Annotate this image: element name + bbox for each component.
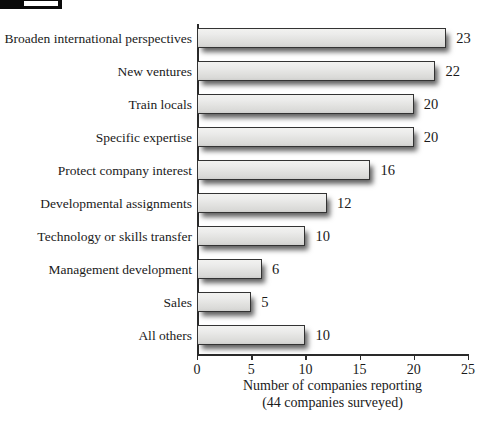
x-tick-label-20: 20	[407, 362, 421, 378]
bar-row: 10	[197, 222, 468, 254]
x-axis-sublabel: (44 companies surveyed)	[197, 395, 468, 412]
bar	[197, 226, 305, 246]
bar-row: 12	[197, 189, 468, 221]
category-label: Sales	[164, 294, 193, 311]
plot-area: 0510152025 232220201612106510	[197, 24, 468, 354]
bar	[197, 325, 305, 345]
bar-value-label: 16	[380, 161, 395, 179]
bar	[197, 193, 327, 213]
bar	[197, 292, 251, 312]
bar	[197, 61, 435, 81]
bar-row: 22	[197, 57, 468, 89]
x-tick-0	[197, 354, 198, 360]
x-axis-caption: Number of companies reporting (44 compan…	[197, 378, 468, 411]
bar	[197, 127, 414, 147]
category-label: Train locals	[128, 96, 192, 113]
bar-value-label: 20	[424, 128, 439, 146]
category-label: Developmental assignments	[40, 195, 192, 212]
x-tick-15	[360, 354, 361, 360]
bar-row: 6	[197, 255, 468, 287]
bar	[197, 259, 262, 279]
bar-value-label: 6	[272, 260, 279, 278]
x-tick-label-0: 0	[194, 362, 201, 378]
x-tick-label-10: 10	[298, 362, 312, 378]
bar-row: 20	[197, 123, 468, 155]
x-tick-5	[251, 354, 252, 360]
bar	[197, 160, 370, 180]
category-label: Management development	[48, 261, 192, 278]
bar-value-label: 23	[456, 29, 471, 47]
bar-row: 10	[197, 321, 468, 353]
category-label: Broaden international perspectives	[5, 30, 192, 47]
bar-value-label: 20	[424, 95, 439, 113]
x-tick-10	[305, 354, 306, 360]
x-axis-label: Number of companies reporting	[197, 378, 468, 395]
category-label: New ventures	[117, 63, 192, 80]
bar-row: 5	[197, 288, 468, 320]
x-tick-20	[414, 354, 415, 360]
category-label: Protect company interest	[58, 162, 192, 179]
bar-row: 20	[197, 90, 468, 122]
bar-value-label: 12	[337, 194, 352, 212]
category-label: All others	[138, 327, 192, 344]
bar-value-label: 10	[315, 326, 330, 344]
x-tick-25	[468, 354, 469, 360]
bar	[197, 94, 414, 114]
bar-chart: 0510152025 232220201612106510 Broaden in…	[0, 0, 500, 426]
x-tick-label-15: 15	[353, 362, 367, 378]
x-axis-line	[197, 354, 468, 356]
category-label: Specific expertise	[96, 129, 192, 146]
bar	[197, 28, 446, 48]
category-label: Technology or skills transfer	[37, 228, 192, 245]
bar-value-label: 5	[261, 293, 268, 311]
bar-row: 23	[197, 24, 468, 56]
x-tick-label-5: 5	[248, 362, 255, 378]
bar-row: 16	[197, 156, 468, 188]
bar-value-label: 22	[445, 62, 460, 80]
x-tick-label-25: 25	[461, 362, 475, 378]
bar-value-label: 10	[315, 227, 330, 245]
